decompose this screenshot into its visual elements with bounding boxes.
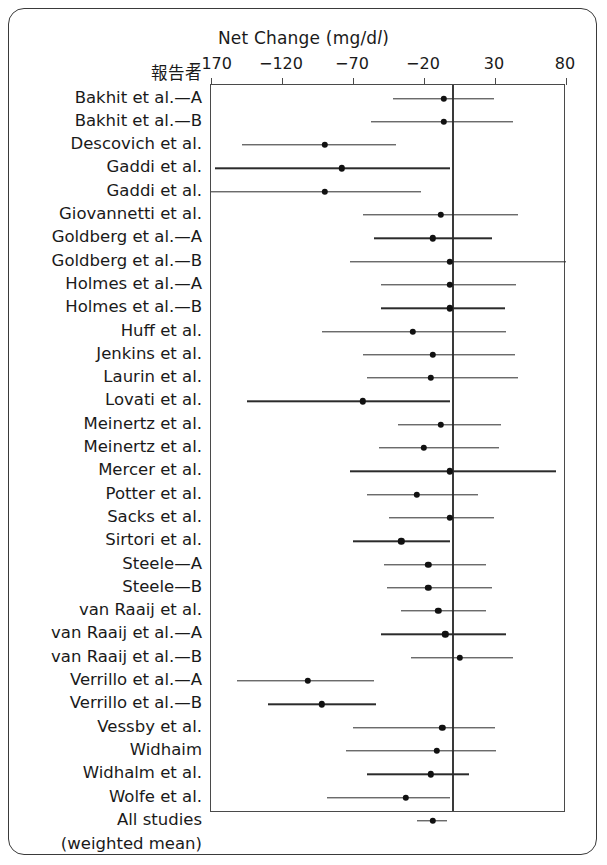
confidence-interval-line xyxy=(367,377,518,378)
study-label: Descovich et al. xyxy=(70,136,202,153)
confidence-interval-line xyxy=(367,773,469,774)
point-estimate-marker xyxy=(414,491,420,497)
point-estimate-marker xyxy=(429,352,435,358)
point-estimate-marker xyxy=(435,608,441,614)
study-label: Steele—A xyxy=(122,555,202,572)
point-estimate-marker xyxy=(428,375,434,381)
x-tick-label-3: −20 xyxy=(406,54,440,73)
point-estimate-marker xyxy=(442,631,448,637)
point-estimate-marker xyxy=(360,398,366,404)
study-label: Lovati et al. xyxy=(105,392,202,409)
study-label: Laurin et al. xyxy=(103,369,202,386)
point-estimate-marker xyxy=(402,794,408,800)
confidence-interval-line xyxy=(389,517,494,518)
study-label: van Raaij et al.—A xyxy=(51,625,202,642)
x-tick-label-5: 80 xyxy=(555,54,575,73)
point-estimate-marker xyxy=(319,701,325,707)
confidence-interval-line xyxy=(411,657,513,658)
study-label: Goldberg et al.—B xyxy=(52,252,202,269)
confidence-interval-line xyxy=(247,401,450,402)
study-label: Giovannetti et al. xyxy=(59,206,202,223)
x-tick-label-2: −70 xyxy=(335,54,369,73)
study-label: Sacks et al. xyxy=(107,509,202,526)
confidence-interval-line xyxy=(367,494,478,495)
x-tick-label-1: −120 xyxy=(259,54,303,73)
study-label: Huff et al. xyxy=(121,322,202,339)
point-estimate-marker xyxy=(425,585,431,591)
point-estimate-marker xyxy=(438,212,444,218)
study-label: Gaddi et al. xyxy=(107,159,202,176)
study-label: Vessby et al. xyxy=(97,718,202,735)
point-estimate-marker xyxy=(421,445,427,451)
x-tick-mark-2 xyxy=(353,78,354,85)
confidence-interval-line xyxy=(363,354,515,355)
point-estimate-marker xyxy=(439,724,445,730)
point-estimate-marker xyxy=(441,95,447,101)
study-label: Goldberg et al.—A xyxy=(52,229,202,246)
point-estimate-marker xyxy=(398,538,404,544)
point-estimate-marker xyxy=(434,748,440,754)
confidence-interval-line xyxy=(381,307,505,308)
x-tick-mark-5 xyxy=(566,78,567,85)
study-label: Verrillo et al.—B xyxy=(70,695,202,712)
study-label: Bakhit et al.—B xyxy=(75,113,202,130)
point-estimate-marker xyxy=(429,818,435,824)
confidence-interval-line xyxy=(384,564,486,565)
confidence-interval-line xyxy=(387,587,492,588)
point-estimate-marker xyxy=(438,421,444,427)
x-tick-mark-4 xyxy=(495,78,496,85)
x-tick-mark-3 xyxy=(424,78,425,85)
study-label: Wolfe et al. xyxy=(109,788,202,805)
study-label: Jenkins et al. xyxy=(96,346,202,363)
point-estimate-marker xyxy=(304,678,310,684)
confidence-interval-line xyxy=(215,168,449,169)
x-tick-mark-0 xyxy=(211,78,212,85)
study-label: Widhalm et al. xyxy=(83,765,202,782)
author-column-header: 報告者 xyxy=(151,66,202,83)
point-estimate-marker xyxy=(409,328,415,334)
study-label: Gaddi et al. xyxy=(107,182,202,199)
point-estimate-marker xyxy=(456,654,462,660)
study-label: Widhaim xyxy=(130,742,202,759)
study-label: Verrillo et al.—A xyxy=(70,672,202,689)
confidence-interval-line xyxy=(353,727,495,728)
confidence-interval-line xyxy=(327,797,449,798)
x-tick-label-4: 30 xyxy=(484,54,504,73)
point-estimate-marker xyxy=(428,771,434,777)
confidence-interval-line xyxy=(350,261,566,262)
forest-plot-figure: Net Change (mg/dl) −170−120−70−203080 報告… xyxy=(0,0,607,865)
study-label: Meinertz et al. xyxy=(83,439,202,456)
point-estimate-marker xyxy=(338,165,344,171)
x-tick-mark-1 xyxy=(282,78,283,85)
study-label: Potter et al. xyxy=(106,485,202,502)
point-estimate-marker xyxy=(441,119,447,125)
point-estimate-marker xyxy=(425,561,431,567)
study-label: Meinertz et al. xyxy=(83,415,202,432)
confidence-interval-line xyxy=(346,750,497,751)
study-label: Holmes et al.—A xyxy=(65,276,202,293)
confidence-interval-line xyxy=(398,424,500,425)
chart-title-prefix: Net Change (mg/d xyxy=(218,28,377,48)
confidence-interval-line xyxy=(211,191,421,192)
study-label-column: 報告者 Bakhit et al.—ABakhit et al.—BDescov… xyxy=(0,0,208,865)
plot-area xyxy=(210,84,565,812)
study-label: Holmes et al.—B xyxy=(65,299,202,316)
study-label: Mercer et al. xyxy=(98,462,202,479)
point-estimate-marker xyxy=(321,188,327,194)
study-label: van Raaij et al.—B xyxy=(51,648,202,665)
confidence-interval-line xyxy=(242,144,395,145)
confidence-interval-line xyxy=(350,471,556,472)
point-estimate-marker xyxy=(429,235,435,241)
study-label: van Raaij et al. xyxy=(79,602,202,619)
study-label: Bakhit et al.—A xyxy=(75,89,202,106)
weighted-mean-note: (weighted mean) xyxy=(61,834,202,853)
point-estimate-marker xyxy=(321,142,327,148)
study-label: Sirtori et al. xyxy=(105,532,202,549)
chart-title-suffix: ) xyxy=(382,28,389,48)
study-label: All studies xyxy=(117,812,202,829)
confidence-interval-line xyxy=(379,447,500,448)
confidence-interval-line xyxy=(401,610,486,611)
study-label: Steele—B xyxy=(122,579,202,596)
